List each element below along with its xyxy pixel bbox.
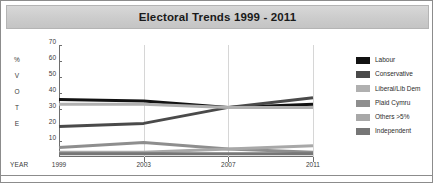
legend-item-label: Others >5% xyxy=(375,114,410,121)
legend-item-conservative[interactable]: Conservative xyxy=(356,71,421,78)
x-gridline-2011 xyxy=(313,45,314,157)
legend-item-labour[interactable]: Labour xyxy=(356,57,421,64)
legend-swatch-icon xyxy=(356,85,370,92)
y-axis-letter-0: % xyxy=(14,57,20,64)
legend-item-label: Conservative xyxy=(375,71,413,78)
x-tick-label-2003: 2003 xyxy=(136,162,150,169)
legend-item-independent[interactable]: Independent xyxy=(356,128,421,135)
series-line-conservative xyxy=(59,98,313,127)
plot-area: 10203040506070 1999200320072011 xyxy=(59,45,313,157)
legend-item-label: Liberal/Lib Dem xyxy=(375,86,421,93)
y-tick-label: 10 xyxy=(49,135,59,142)
y-axis-title: % V O T E xyxy=(11,57,23,128)
legend-item-others-5[interactable]: Others >5% xyxy=(356,114,421,121)
legend-swatch-icon xyxy=(356,100,370,107)
y-tick-label: 60 xyxy=(49,55,59,62)
y-tick-label: 70 xyxy=(49,39,59,46)
plot-block: 10203040506070 1999200320072011 xyxy=(59,45,313,157)
x-tick-label-1999: 1999 xyxy=(52,162,66,169)
y-tick-label: 20 xyxy=(49,119,59,126)
legend-swatch-icon xyxy=(356,114,370,121)
x-axis-title: YEAR xyxy=(10,161,29,168)
legend-item-label: Plaid Cymru xyxy=(375,100,410,107)
y-axis-letter-3: T xyxy=(15,105,19,112)
chart-legend: LabourConservativeLiberal/Lib DemPlaid C… xyxy=(356,57,421,135)
y-axis-letter-4: E xyxy=(15,121,19,128)
chart-title-bar: Electoral Trends 1999 - 2011 xyxy=(6,5,429,29)
y-tick-label: 30 xyxy=(49,103,59,110)
bottom-divider xyxy=(1,175,433,176)
y-tick-label: 50 xyxy=(49,71,59,78)
y-tick-label: 40 xyxy=(49,87,59,94)
series-layer xyxy=(59,45,313,157)
legend-swatch-icon xyxy=(356,128,370,135)
y-axis-letter-1: V xyxy=(15,73,19,80)
legend-item-label: Independent xyxy=(375,128,411,135)
page-title: Electoral Trends 1999 - 2011 xyxy=(139,11,297,23)
chart-figure: Electoral Trends 1999 - 2011 % V O T E Y… xyxy=(0,0,433,183)
x-tick-label-2007: 2007 xyxy=(221,162,235,169)
legend-item-label: Labour xyxy=(375,57,395,64)
legend-item-liberal-lib-dem[interactable]: Liberal/Lib Dem xyxy=(356,85,421,92)
legend-swatch-icon xyxy=(356,57,370,64)
legend-swatch-icon xyxy=(356,71,370,78)
y-axis-letter-2: O xyxy=(14,89,19,96)
legend-item-plaid-cymru[interactable]: Plaid Cymru xyxy=(356,100,421,107)
x-tick-label-2011: 2011 xyxy=(306,162,320,169)
